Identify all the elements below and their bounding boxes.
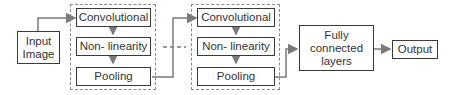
convolutional-label: Convolutional [79,11,149,24]
output-label: Output [398,43,433,56]
fully-connected-label: Fully connected layers [308,29,365,68]
pooling-box-2: Pooling [197,67,275,86]
non-linearity-box-1: Non- linearity [76,37,151,56]
non-linearity-box-2: Non- linearity [197,37,275,56]
pooling-box-1: Pooling [76,67,151,86]
fully-connected-box: Fully connected layers [299,25,374,71]
pooling-label: Pooling [217,70,255,83]
convolutional-box-1: Convolutional [76,8,151,27]
convolutional-box-2: Convolutional [197,8,275,27]
input-image-box: Input Image [17,31,60,64]
non-linearity-label: Non- linearity [202,40,270,53]
non-linearity-label: Non- linearity [80,40,148,53]
convolutional-label: Convolutional [201,11,271,24]
input-image-label: Input Image [18,35,59,61]
pooling-label: Pooling [94,70,132,83]
output-box: Output [392,40,438,59]
